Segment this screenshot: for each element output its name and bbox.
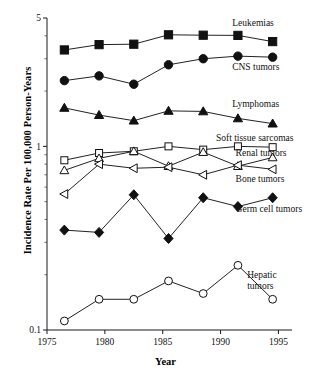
data-point-marker — [130, 80, 138, 88]
data-point-marker — [60, 190, 68, 199]
data-point-marker — [164, 31, 172, 39]
data-point-marker — [130, 40, 138, 48]
data-point-marker — [234, 52, 242, 60]
series-hepatic-tumors — [60, 261, 276, 324]
series-label-hepatic-tumors: Hepatictumors — [247, 270, 277, 291]
data-point-marker — [61, 157, 68, 164]
data-point-marker — [234, 31, 242, 39]
data-point-marker — [164, 106, 173, 114]
series-label-soft-tissue-sarcomas: Soft tissue sarcomas — [216, 133, 294, 143]
data-point-marker — [60, 317, 68, 325]
data-point-marker — [60, 46, 68, 54]
y-tick-label: 0.1 — [29, 325, 41, 335]
data-point-marker — [130, 295, 138, 303]
x-axis-title: Year — [0, 356, 331, 367]
data-point-marker — [60, 103, 69, 111]
y-tick-label: 5 — [36, 13, 41, 23]
data-point-marker — [60, 76, 68, 84]
data-point-marker — [165, 143, 172, 150]
series-line — [64, 265, 272, 321]
x-tick-label: 1980 — [95, 337, 114, 347]
data-point-marker — [95, 72, 103, 80]
data-point-marker — [164, 61, 172, 69]
data-point-marker — [165, 277, 173, 285]
data-point-marker — [199, 55, 207, 63]
series-label-germ-cell-tumors: Germ cell tumors — [236, 204, 303, 214]
series-label-renal-tumors: Renal tumors — [236, 148, 287, 158]
x-tick-label: 1985 — [153, 337, 172, 347]
series-label-lymphomas: Lymphomas — [232, 99, 279, 109]
data-point-marker — [60, 225, 69, 235]
data-point-marker — [199, 290, 207, 298]
x-tick-label: 1975 — [38, 337, 57, 347]
x-tick-label: 1995 — [269, 337, 288, 347]
series-leukemias — [60, 31, 276, 54]
data-point-marker — [95, 295, 103, 303]
data-point-marker — [268, 193, 277, 203]
series-germ-cell-tumors — [60, 190, 277, 244]
data-point-marker — [268, 165, 276, 174]
series-label-cns-tumors: CNS tumors — [232, 62, 280, 72]
data-point-marker — [95, 41, 103, 49]
data-point-marker — [269, 37, 277, 45]
data-point-marker — [129, 164, 137, 173]
x-tick-label: 1990 — [211, 337, 230, 347]
chart-root: LeukemiasCNS tumorsLymphomasSoft tissue … — [0, 0, 331, 377]
incidence-rate-line-chart: LeukemiasCNS tumorsLymphomasSoft tissue … — [0, 0, 331, 377]
y-axis-title: Incidence Rate Per 100,000 Person-Years — [22, 36, 33, 286]
chart-series-labels: LeukemiasCNS tumorsLymphomasSoft tissue … — [216, 18, 302, 292]
data-point-marker — [199, 31, 207, 39]
y-tick-label: 1 — [36, 142, 41, 152]
series-label-leukemias: Leukemias — [232, 18, 274, 28]
data-point-marker — [268, 53, 276, 61]
data-point-marker — [199, 170, 207, 179]
data-point-marker — [269, 295, 277, 303]
data-point-marker — [199, 107, 208, 115]
series-label-bone-tumors: Bone tumors — [236, 174, 285, 184]
data-point-marker — [234, 261, 242, 269]
